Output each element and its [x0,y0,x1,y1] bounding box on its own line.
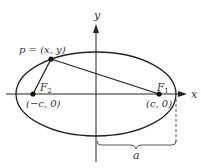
y-axis-arrow-icon [93,24,99,33]
focus-f2-label: F2 [39,81,52,95]
segment-p-to-f1 [51,59,159,94]
focus-f2-point [30,91,35,96]
focus-f1-label: F1 [156,81,169,95]
x-axis-label: x [191,88,198,101]
semi-major-label: a [133,149,140,162]
ellipse-diagram: y x p = (x, y) F2 (−c, 0) F1 (c, 0) a [0,0,201,168]
point-p-label: p = (x, y) [19,44,66,55]
point-p [48,56,53,61]
focus-f1-coords: (c, 0) [146,98,172,109]
x-axis-arrow-icon [178,91,187,97]
focus-f2-coords: (−c, 0) [26,98,61,109]
y-axis-label: y [93,9,101,22]
semi-major-brace [97,141,176,149]
